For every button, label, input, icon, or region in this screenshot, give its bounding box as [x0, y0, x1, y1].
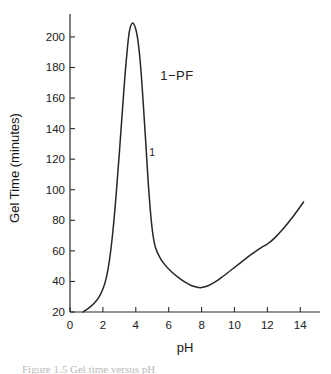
- data-series-group: [83, 23, 303, 312]
- gel-time-ph-chart: 20406080100120140160180200 02468101214 1…: [0, 0, 331, 374]
- y-tick-label: 200: [46, 31, 65, 43]
- x-tick-label: 8: [198, 319, 204, 331]
- x-axis-title: pH: [177, 340, 194, 355]
- data-curve: [83, 23, 303, 312]
- y-tick-label: 60: [52, 245, 65, 257]
- x-tick-label: 6: [165, 319, 171, 331]
- x-tick-label: 4: [133, 319, 140, 331]
- x-axis-ticks: 02468101214: [67, 307, 307, 331]
- y-tick-label: 160: [46, 92, 65, 104]
- y-tick-label: 180: [46, 61, 65, 73]
- chart-annotations: 1−PF1: [149, 68, 193, 158]
- x-tick-label: 12: [261, 319, 274, 331]
- y-axis-ticks: 20406080100120140160180200: [46, 31, 75, 318]
- axes: [70, 14, 320, 312]
- y-tick-label: 40: [52, 275, 65, 287]
- x-tick-label: 10: [228, 319, 241, 331]
- y-tick-label: 20: [52, 306, 65, 318]
- x-tick-label: 14: [294, 319, 307, 331]
- figure-caption: Figure 1.5 Gel time versus pH: [22, 366, 155, 374]
- y-tick-label: 120: [46, 153, 65, 165]
- y-tick-label: 140: [46, 123, 65, 135]
- y-tick-label: 100: [46, 184, 65, 196]
- x-tick-label: 2: [100, 319, 106, 331]
- x-tick-label: 0: [67, 319, 73, 331]
- y-axis-title: Gel Time (minutes): [7, 113, 22, 223]
- y-tick-label: 80: [52, 214, 65, 226]
- series-label-annotation: 1−PF: [160, 68, 193, 83]
- figure-container: 20406080100120140160180200 02468101214 1…: [0, 0, 331, 374]
- curve-number-label: 1: [149, 146, 155, 158]
- figure-caption-strip: Figure 1.5 Gel time versus pH: [0, 366, 331, 374]
